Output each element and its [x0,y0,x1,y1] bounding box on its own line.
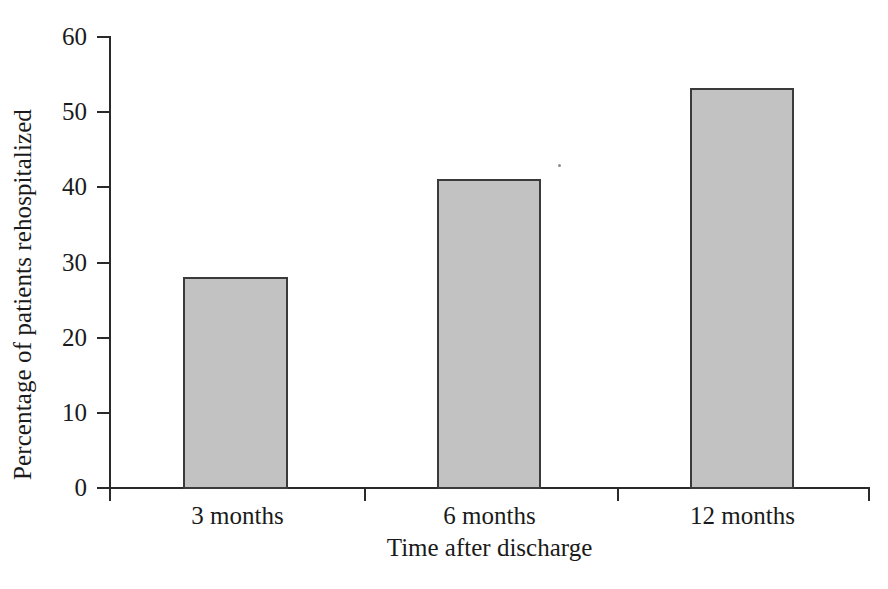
bar-12-months [690,88,794,489]
x-category-label-0: 3 months [160,500,315,532]
bar-chart: Percentage of patients rehospitalized 0 … [0,0,888,589]
y-tick-label-20: 20 [41,325,87,350]
y-tick-10 [97,412,110,414]
x-tick-boundary-1 [364,488,366,501]
bar-3-months [183,277,288,489]
y-axis-title: Percentage of patients rehospitalized [0,0,46,589]
y-tick-40 [97,186,110,188]
y-tick-60 [97,36,110,38]
y-tick-50 [97,111,110,113]
print-speck [558,164,561,167]
y-tick-label-10: 10 [41,400,87,425]
y-tick-20 [97,337,110,339]
x-category-label-1: 6 months [412,500,567,532]
y-tick-label-40: 40 [41,174,87,199]
y-tick-label-60: 60 [41,24,87,49]
y-tick-label-0: 0 [41,475,87,500]
y-tick-label-50: 50 [41,99,87,124]
x-category-label-2: 12 months [665,500,820,532]
x-tick-boundary-0 [109,488,111,501]
bar-6-months [437,179,541,489]
x-axis-title: Time after discharge [109,534,870,562]
y-tick-30 [97,262,110,264]
x-tick-boundary-3 [868,488,870,501]
x-tick-boundary-2 [617,488,619,501]
y-tick-label-30: 30 [41,250,87,275]
